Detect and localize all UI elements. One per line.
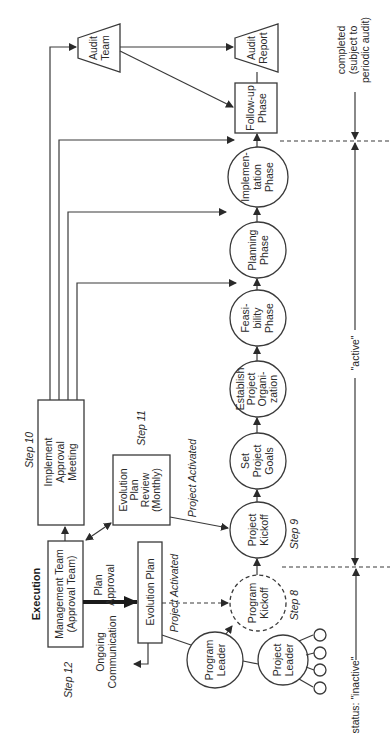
- line-to-planning: [77, 283, 236, 400]
- execution-title: Execution: [30, 567, 42, 620]
- establish-organization-node: Establish Project Organi- zation: [230, 361, 286, 417]
- line-to-audit-team: [50, 47, 76, 400]
- program-kickoff-node: Program Kickoff: [230, 575, 286, 631]
- evolution-plan-label: Evolution Plan: [144, 558, 156, 625]
- meeting-label-3: Meeting: [66, 443, 78, 481]
- line-audit-team-to-followup: [120, 51, 233, 107]
- line-evolution-plan-to-leader: [162, 635, 191, 645]
- line-program-to-project-leader: [243, 661, 258, 664]
- project-activated-label-b: Project Activated: [168, 553, 180, 633]
- meeting-label-2: Approval: [54, 441, 66, 482]
- audit-team-label-2: Team: [99, 35, 111, 61]
- feasibility-phase-node: Feasi- bility Phase: [230, 290, 286, 346]
- audit-report-label-2: Report: [257, 32, 269, 64]
- management-team-node: Management Team (Approval Team): [48, 541, 83, 647]
- ongoing-communication-label-2: Communication: [106, 615, 118, 688]
- program-leader-label-2: Leader: [215, 643, 227, 676]
- project-kickoff-label-2: Kickoff: [258, 514, 270, 545]
- team-member-circle: [314, 664, 326, 676]
- project-kickoff-label-1: Project: [246, 514, 258, 547]
- status-completed-label-1: completed: [335, 26, 347, 75]
- implementation-label-1: Implemen-: [239, 152, 251, 202]
- project-leader-label-2: Leader: [283, 643, 295, 676]
- arrow-ongoing-communication: [134, 643, 148, 664]
- audit-team-node: Audit Team: [78, 24, 120, 72]
- planning-phase-node: Planning Phase: [230, 222, 286, 278]
- management-team-label-2: (Approval Team): [65, 556, 77, 633]
- establish-label-4: zation: [267, 375, 279, 403]
- project-leader-label-1: Project: [271, 644, 283, 677]
- review-label-4: (Monthly): [150, 468, 162, 512]
- step-12-label: Step 12: [62, 662, 74, 698]
- step-10-label: Step 10: [23, 432, 35, 468]
- implement-approval-meeting-node: Implement Approval Meeting: [38, 400, 84, 525]
- step-9-label: Step 9: [288, 519, 300, 550]
- plan-approval-label-2: Approval: [104, 564, 116, 605]
- status-inactive-label: status: "inactive": [349, 656, 361, 733]
- team-member-circle: [314, 647, 326, 659]
- audit-report-node: Audit Report: [235, 24, 278, 72]
- status-completed-label-3: periodic audit): [359, 17, 371, 83]
- feasibility-label-1: Feasi-: [239, 303, 251, 333]
- line-to-followup: [59, 140, 234, 400]
- evolution-plan-review-node: Evolution Plan Review (Monthly): [113, 455, 170, 525]
- arrow-review-to-project-kickoff: [170, 517, 228, 528]
- meeting-output-lines: [50, 47, 236, 400]
- arrow-leader-to-program-kickoff: [226, 626, 232, 634]
- meeting-label-1: Implement: [42, 437, 54, 486]
- set-goals-label-2: Project: [251, 445, 263, 478]
- process-diagram: Audit Team Audit Report Follow-up Phase …: [0, 0, 392, 736]
- evolution-plan-node: Evolution Plan: [138, 542, 162, 643]
- project-leader-node: Project Leader: [258, 635, 308, 685]
- audit-report-label-1: Audit: [245, 36, 257, 60]
- followup-label-2: Phase: [256, 93, 268, 123]
- set-goals-label-1: Set: [239, 453, 251, 469]
- project-kickoff-node: Project Kickoff: [230, 502, 286, 558]
- project-activated-label-a: Project Activated: [186, 438, 198, 518]
- step-11-label: Step 11: [135, 410, 147, 445]
- feasibility-label-3: Phase: [263, 303, 275, 333]
- program-kickoff-label-1: Program: [246, 583, 258, 624]
- program-leader-label-1: Program: [203, 640, 215, 681]
- set-goals-label-3: Goals: [263, 447, 275, 474]
- feasibility-label-2: bility: [251, 307, 263, 329]
- line-to-implementation: [68, 212, 226, 400]
- arrow-management-review-bidirectional: [86, 523, 111, 540]
- followup-phase-node: Follow-up Phase: [235, 83, 277, 133]
- ongoing-communication-label-1: Ongoing: [94, 632, 106, 672]
- step-8-label: Step 8: [288, 590, 300, 621]
- implementation-label-3: Phase: [263, 162, 275, 192]
- program-kickoff-label-2: Kickoff: [258, 587, 270, 618]
- team-member-circle: [314, 682, 326, 694]
- team-member-circle: [314, 629, 326, 641]
- followup-label-1: Follow-up: [244, 85, 256, 131]
- audit-team-label-1: Audit: [87, 36, 99, 60]
- planning-label-1: Planning: [246, 229, 258, 270]
- management-team-label-1: Management Team: [53, 549, 65, 639]
- status-completed-label-2: (subject to: [347, 26, 359, 75]
- implementation-label-2: tation: [251, 164, 263, 190]
- implementation-phase-node: Implemen- tation Phase: [228, 147, 288, 207]
- status-active-label: "active": [349, 335, 361, 370]
- planning-label-2: Phase: [258, 235, 270, 265]
- program-leader-node: Program Leader: [187, 632, 243, 688]
- set-goals-node: Set Project Goals: [230, 433, 286, 489]
- plan-approval-label-1: Plan: [92, 574, 104, 595]
